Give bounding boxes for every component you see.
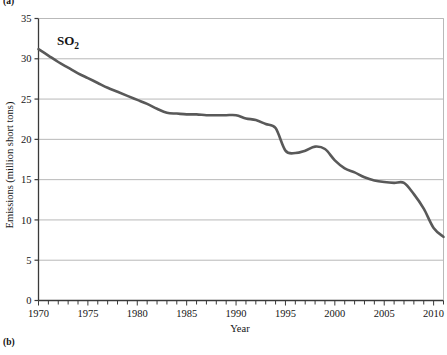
x-tick-label-1995: 1995: [275, 308, 296, 319]
series-label-subscript: 2: [74, 41, 79, 51]
data-series-line: [39, 49, 444, 237]
x-tick-label-1980: 1980: [127, 308, 148, 319]
x-tick-label-2005: 2005: [374, 308, 395, 319]
y-tick-label-30: 30: [21, 53, 32, 64]
y-tick-label-0: 0: [26, 295, 31, 306]
so2-emissions-line-chart: 05101520253035 1970197519801985199019952…: [0, 0, 447, 355]
series-label-text: SO: [57, 33, 74, 48]
y-axis-title: Emissions (million short tons): [4, 101, 16, 228]
x-tick-label-2010: 2010: [423, 308, 444, 319]
y-axis-tick-labels: 05101520253035: [21, 13, 32, 306]
gridlines: [39, 19, 444, 261]
x-tick-label-1990: 1990: [226, 308, 247, 319]
figure-container: (a) 05101520253035 197019751980198519901…: [0, 0, 447, 355]
x-axis-title: Year: [230, 323, 250, 334]
y-tick-label-25: 25: [21, 94, 32, 105]
series-label-so2: SO2: [57, 33, 79, 51]
y-tick-label-35: 35: [21, 13, 32, 24]
y-tick-label-5: 5: [26, 255, 31, 266]
x-axis-tick-labels: 197019751980198519901995200020052010: [28, 308, 444, 319]
plot-border: [39, 19, 444, 301]
x-tick-label-2000: 2000: [324, 308, 345, 319]
y-tick-label-10: 10: [21, 215, 32, 226]
x-tick-label-1975: 1975: [77, 308, 98, 319]
x-tick-label-1970: 1970: [28, 308, 49, 319]
so2-series-path: [39, 49, 444, 237]
x-axis-minor-ticks: [39, 301, 444, 306]
y-tick-label-15: 15: [21, 174, 32, 185]
y-tick-label-20: 20: [21, 134, 32, 145]
x-tick-label-1985: 1985: [176, 308, 197, 319]
panel-label-b: (b): [3, 337, 15, 347]
